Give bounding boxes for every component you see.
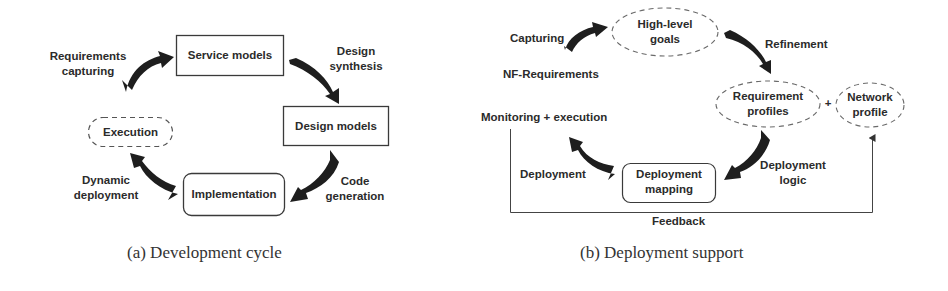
execution-label: Execution bbox=[89, 118, 172, 146]
capturing-label: Capturing bbox=[510, 31, 564, 46]
deployment-logic-line1: Deployment bbox=[758, 158, 828, 173]
deployment-mapping-label: Deployment mapping bbox=[623, 167, 715, 197]
implementation-label: Implementation bbox=[184, 174, 284, 215]
refinement-arrow-icon bbox=[724, 30, 771, 74]
design-synthesis-line2: synthesis bbox=[324, 59, 388, 74]
requirement-profiles-label: Requirement profiles bbox=[726, 89, 810, 119]
nf-requirements-label: NF-Requirements bbox=[503, 67, 599, 82]
network-profile-line2: profile bbox=[840, 105, 900, 120]
requirements-capturing-line1: Requirements bbox=[44, 49, 132, 64]
requirements-capturing-line2: capturing bbox=[44, 64, 132, 79]
deployment-mapping-line1: Deployment bbox=[623, 167, 715, 182]
code-generation-line2: generation bbox=[321, 189, 389, 204]
implementation-text: Implementation bbox=[192, 187, 277, 202]
code-generation-line1: Code bbox=[321, 174, 389, 189]
dynamic-deployment-label: Dynamic deployment bbox=[68, 173, 144, 203]
design-synthesis-line1: Design bbox=[324, 44, 388, 59]
requirements-capturing-label: Requirements capturing bbox=[44, 49, 132, 79]
plus-sign: + bbox=[823, 96, 833, 111]
monitoring-execution-label: Monitoring + execution bbox=[481, 110, 607, 125]
deployment-mapping-line2: mapping bbox=[623, 182, 715, 197]
high-level-goals-label: High-level goals bbox=[628, 17, 702, 47]
requirement-profiles-line2: profiles bbox=[726, 104, 810, 119]
deployment-logic-label: Deployment logic bbox=[758, 158, 828, 188]
feedback-label: Feedback bbox=[652, 214, 705, 229]
code-generation-label: Code generation bbox=[321, 174, 389, 204]
dynamic-deployment-line2: deployment bbox=[68, 188, 144, 203]
network-profile-label: Network profile bbox=[840, 90, 900, 120]
refinement-label: Refinement bbox=[765, 37, 828, 52]
high-level-goals-line1: High-level bbox=[628, 17, 702, 32]
design-models-text: Design models bbox=[295, 119, 377, 134]
network-profile-line1: Network bbox=[840, 90, 900, 105]
caption-b: (b) Deployment support bbox=[580, 243, 743, 263]
requirement-profiles-line1: Requirement bbox=[726, 89, 810, 104]
deployment-logic-line2: logic bbox=[758, 173, 828, 188]
capturing-arrow-icon bbox=[564, 22, 608, 52]
deployment-edge-label: Deployment bbox=[520, 167, 586, 182]
caption-a: (a) Development cycle bbox=[127, 243, 282, 263]
high-level-goals-line2: goals bbox=[628, 32, 702, 47]
design-models-label: Design models bbox=[284, 107, 388, 145]
service-models-text: Service models bbox=[188, 48, 272, 63]
execution-text: Execution bbox=[103, 125, 158, 140]
design-synthesis-label: Design synthesis bbox=[324, 44, 388, 74]
dynamic-deployment-line1: Dynamic bbox=[68, 173, 144, 188]
service-models-label: Service models bbox=[177, 36, 283, 75]
figure: Service models Design models Implementat… bbox=[0, 0, 948, 291]
